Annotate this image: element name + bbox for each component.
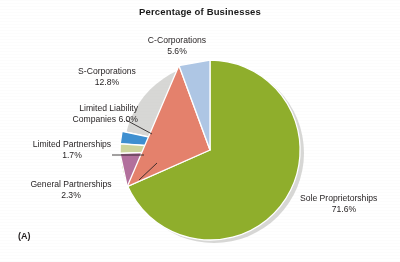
slice-label-limited-liability-companies-value: Companies 6.0% [10, 114, 138, 125]
slice-label-s-corporations-name: S-Corporations [48, 66, 166, 77]
slice-label-general-partnerships: General Partnerships 2.3% [4, 179, 138, 200]
slice-label-sole-proprietorships-value: 71.6% [300, 204, 388, 215]
slice-label-limited-liability-companies-name: Limited Liability [10, 103, 138, 114]
slice-label-general-partnerships-value: 2.3% [4, 190, 138, 201]
slice-label-s-corporations-value: 12.8% [48, 77, 166, 88]
slice-label-limited-partnerships-value: 1.7% [6, 150, 138, 161]
slice-label-general-partnerships-name: General Partnerships [4, 179, 138, 190]
slice-label-limited-partnerships-name: Limited Partnerships [6, 139, 138, 150]
slice-label-limited-liability-companies: Limited Liability Companies 6.0% [10, 103, 138, 124]
slice-label-limited-partnerships: Limited Partnerships 1.7% [6, 139, 138, 160]
slice-label-c-corporations: C-Corporations 5.6% [118, 35, 236, 56]
slice-label-c-corporations-name: C-Corporations [118, 35, 236, 46]
slice-label-s-corporations: S-Corporations 12.8% [48, 66, 166, 87]
slice-label-sole-proprietorships: Sole Proprietorships 71.6% [300, 193, 398, 214]
panel-label: (A) [18, 231, 31, 241]
pie-chart-figure: Percentage of Businesses C-Corporations … [0, 0, 400, 262]
slice-label-c-corporations-value: 5.6% [118, 46, 236, 57]
slice-label-sole-proprietorships-name: Sole Proprietorships [300, 193, 398, 204]
